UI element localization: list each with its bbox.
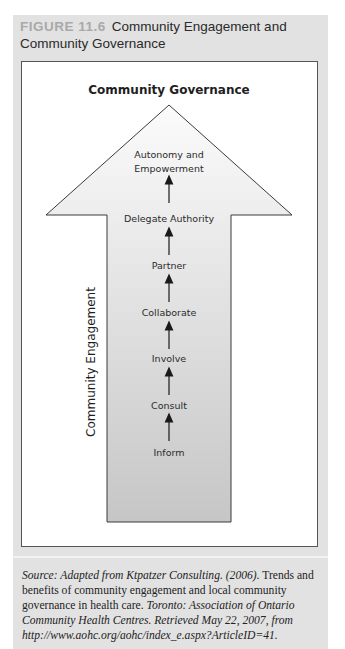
community-governance-label: Community Governance bbox=[88, 83, 249, 97]
step-consult: Consult bbox=[151, 399, 187, 413]
community-engagement-label: Community Engagement bbox=[84, 287, 98, 437]
step-collaborate: Collaborate bbox=[142, 306, 197, 320]
source-italic-1: Source: Adapted from Ktpatzer Consulting… bbox=[22, 569, 260, 582]
upward-arrow-diagram bbox=[0, 0, 345, 649]
step-partner: Partner bbox=[152, 259, 187, 273]
step-involve: Involve bbox=[152, 352, 186, 366]
divider bbox=[13, 556, 328, 558]
step-delegate-authority: Delegate Authority bbox=[124, 212, 214, 226]
step-autonomy: Autonomy and Empowerment bbox=[134, 148, 204, 176]
source-citation: Source: Adapted from Ktpatzer Consulting… bbox=[22, 568, 324, 643]
step-inform: Inform bbox=[154, 446, 185, 460]
